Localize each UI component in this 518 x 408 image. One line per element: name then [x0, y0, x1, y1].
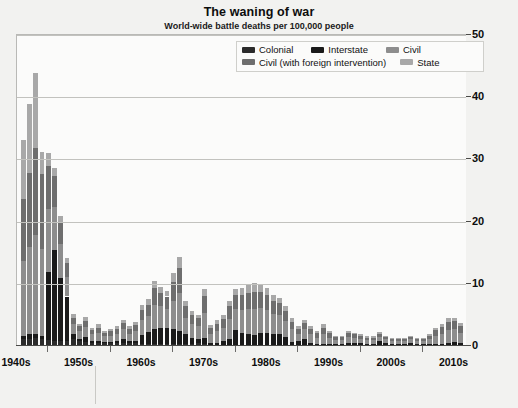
bar-1964: [133, 322, 138, 345]
bar-segment: [358, 339, 363, 343]
bar-segment: [177, 257, 182, 268]
bar-segment: [121, 320, 126, 324]
bar-segment: [190, 324, 195, 338]
bar-segment: [396, 338, 401, 339]
bar-1996: [333, 336, 338, 345]
legend-item-civil[interactable]: Civil: [386, 45, 421, 55]
bar-segment: [308, 326, 313, 328]
bar-segment: [246, 334, 251, 345]
bar-segment: [83, 327, 88, 337]
bar-segment: [52, 176, 57, 207]
bar-segment: [240, 333, 245, 345]
bar-segment: [402, 338, 407, 339]
bar-segment: [277, 334, 282, 345]
bar-1952: [58, 216, 63, 345]
bar-1971: [177, 257, 182, 345]
bar-segment: [458, 326, 463, 333]
bar-segment: [283, 337, 288, 345]
bar-segment: [27, 104, 32, 172]
x-tick-mark-1970s: [172, 346, 173, 352]
bar-segment: [358, 336, 363, 339]
bar-1975: [202, 289, 207, 345]
bar-segment: [371, 336, 376, 337]
bar-segment: [315, 333, 320, 337]
bar-segment: [446, 322, 451, 330]
bar-segment: [402, 341, 407, 344]
bar-segment: [240, 310, 245, 332]
bar-segment: [208, 328, 213, 334]
bar-segment: [127, 341, 132, 343]
legend-item-interstate[interactable]: Interstate: [311, 45, 368, 55]
bar-segment: [383, 337, 388, 339]
bar-1988: [283, 306, 288, 345]
bar-segment: [233, 295, 238, 309]
bar-segment: [146, 332, 151, 344]
bar-segment: [333, 337, 338, 340]
bar-segment: [233, 289, 238, 295]
bar-segment: [52, 207, 57, 251]
bar-segment: [190, 338, 195, 344]
bar-segment: [102, 333, 107, 337]
bar-segment: [183, 301, 188, 306]
bar-1976: [208, 325, 213, 345]
bar-segment: [71, 318, 76, 324]
bar-segment: [265, 288, 270, 295]
plot-area: [16, 34, 466, 345]
bar-segment: [352, 334, 357, 337]
bar-segment: [215, 324, 220, 331]
chart-root: The waning of war World-wide battle deat…: [0, 0, 518, 408]
bar-segment: [121, 339, 126, 342]
bar-segment: [302, 320, 307, 323]
bar-segment: [415, 338, 420, 339]
bar-1984: [258, 284, 263, 345]
x-tick-mark-1980s: [235, 346, 236, 352]
bar-segment: [183, 318, 188, 334]
bar-segment: [227, 306, 232, 318]
bar-segment: [427, 339, 432, 344]
bar-1998: [346, 331, 351, 345]
bar-segment: [377, 334, 382, 337]
bar-segment: [177, 331, 182, 343]
bars-layer: [17, 35, 466, 345]
bar-segment: [283, 306, 288, 311]
bar-1973: [190, 311, 195, 345]
bar-segment: [196, 318, 201, 326]
bar-segment: [96, 324, 101, 327]
bar-segment: [171, 282, 176, 301]
bar-segment: [77, 331, 82, 338]
legend: Colonial Interstate Civil Civil (with fo…: [236, 41, 484, 72]
bar-segment: [21, 199, 26, 261]
bar-segment: [290, 318, 295, 322]
bar-1969: [165, 291, 170, 345]
legend-item-colonial[interactable]: Colonial: [242, 45, 293, 55]
bar-segment: [302, 323, 307, 329]
bar-segment: [296, 334, 301, 341]
bar-segment: [171, 273, 176, 282]
bar-segment: [127, 329, 132, 334]
bar-segment: [58, 278, 63, 340]
bar-2007: [402, 338, 407, 345]
legend-item-state[interactable]: State: [400, 58, 439, 68]
bar-segment: [52, 168, 57, 175]
x-tick-mark-1950s: [47, 346, 48, 352]
bar-segment: [77, 339, 82, 341]
legend-swatch-state: [400, 59, 413, 65]
bar-segment: [115, 329, 120, 334]
bar-segment: [21, 140, 26, 199]
bar-1995: [327, 331, 332, 345]
bar-1946: [21, 140, 26, 345]
bar-segment: [115, 326, 120, 328]
bar-2000: [358, 334, 363, 345]
bar-segment: [202, 313, 207, 338]
bar-1999: [352, 333, 357, 345]
bar-segment: [421, 341, 426, 344]
y-tick-label-20: 20: [472, 215, 484, 227]
bar-segment: [140, 320, 145, 335]
bar-segment: [90, 330, 95, 334]
page-fold-line: [95, 366, 96, 404]
legend-item-civil-foreign[interactable]: Civil (with foreign intervention): [242, 58, 386, 68]
bar-1966: [146, 299, 151, 345]
bar-segment: [396, 341, 401, 344]
bar-segment: [327, 331, 332, 333]
bar-segment: [371, 338, 376, 340]
